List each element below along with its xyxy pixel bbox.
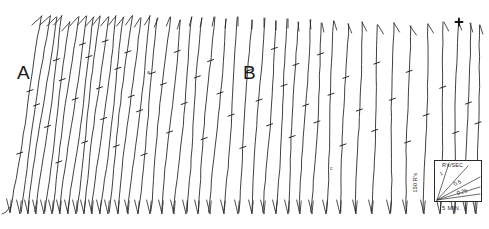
pen-reset-peak [47, 17, 56, 26]
pen-reset-notch [41, 200, 46, 214]
cumulative-trace [355, 22, 362, 212]
cumulative-trace [239, 20, 252, 212]
pen-reset-peak [378, 25, 384, 34]
cumulative-trace [45, 22, 70, 212]
cumulative-record-figure: A B a c R's/SEC 1 0.5 0.25 150 R's 5 MIN… [0, 0, 489, 229]
cumulative-trace [28, 17, 57, 212]
section-label-a: A [17, 63, 30, 82]
pen-reset-peak [166, 17, 170, 26]
pen-reset-notch [273, 200, 278, 214]
reinforcement-tick [34, 104, 40, 106]
cumulative-trace [10, 16, 41, 211]
pen-reset-peak [70, 17, 78, 26]
reinforcement-tick [267, 124, 273, 126]
slope-calibration-legend: R's/SEC 1 0.5 0.25 150 R's 5 MIN. [416, 158, 488, 220]
pen-reset-notch [49, 200, 54, 214]
pen-reset-notch [235, 200, 240, 214]
reinforcement-tick [372, 129, 378, 131]
pen-reset-notch [353, 200, 358, 214]
pen-reset-notch [323, 200, 328, 214]
reinforcement-tick [374, 62, 380, 64]
reinforcement-tick [453, 131, 459, 133]
cumulative-trace [341, 24, 349, 212]
pen-reset-peak [480, 25, 483, 34]
legend-y-axis-label: 150 R's [413, 173, 418, 193]
reinforcement-tick [56, 161, 62, 163]
reinforcement-tick [160, 83, 166, 85]
cumulative-trace [299, 20, 311, 212]
cumulative-trace [252, 18, 265, 212]
reinforcement-tick [17, 152, 23, 154]
cumulative-trace [224, 17, 238, 212]
cumulative-trace [127, 16, 150, 212]
reinforcement-tick [281, 84, 287, 86]
cumulative-trace [406, 26, 411, 212]
cumulative-trace [289, 22, 299, 212]
pen-reset-peak [334, 21, 337, 30]
reinforcement-tick [174, 50, 180, 52]
pen-reset-notch [73, 200, 78, 214]
cumulative-trace [118, 18, 141, 212]
reinforcement-tick [423, 114, 429, 116]
legend-rate-axis-label: R's/SEC [442, 163, 463, 168]
reinforcement-tick [115, 67, 121, 69]
pen-reset-notch [147, 200, 152, 214]
reinforcement-tick [405, 141, 411, 143]
reinforcement-tick [150, 72, 156, 74]
reinforcement-tick [328, 93, 334, 95]
pen-reset-peak [212, 17, 214, 26]
reinforcement-tick [181, 102, 187, 104]
pen-reset-notch [403, 200, 408, 214]
cumulative-trace [311, 23, 321, 212]
cumulative-trace [391, 23, 394, 212]
cumulative-trace [198, 17, 214, 212]
pen-reset-peak [322, 23, 324, 32]
reinforcement-tick [141, 153, 147, 155]
section-label-b: B [243, 63, 256, 82]
cumulative-trace [77, 16, 100, 212]
reinforcement-tick [125, 51, 131, 53]
micro-annotation-c: c [330, 166, 333, 171]
pen-reset-notch [105, 200, 110, 214]
pen-reset-notch [97, 200, 102, 214]
pen-reset-peak [444, 22, 449, 31]
pen-reset-peak [225, 19, 226, 28]
pen-reset-notch [135, 200, 140, 214]
pen-reset-notch [183, 200, 188, 214]
reinforcement-tick [289, 136, 295, 138]
reinforcement-tick [201, 138, 207, 140]
pen-reset-peak [134, 18, 140, 27]
cumulative-trace [162, 20, 181, 212]
pen-reset-peak [394, 23, 400, 32]
cumulative-trace [209, 19, 226, 212]
cumulative-trace [151, 17, 171, 212]
event-cross-marker [456, 19, 463, 26]
micro-annotation-a: a [147, 70, 150, 75]
pen-reset-peak [428, 24, 434, 33]
reinforcement-tick [314, 121, 320, 123]
cumulative-trace [100, 17, 124, 212]
reinforcement-tick [137, 110, 143, 112]
cumulative-trace [371, 25, 377, 212]
cumulative-trace [173, 17, 191, 212]
reinforcement-tick [475, 122, 481, 124]
cumulative-trace [138, 18, 157, 212]
reinforcement-tick [59, 79, 65, 81]
legend-x-axis-label: 5 MIN. [442, 206, 461, 212]
cumulative-trace [187, 18, 202, 212]
cumulative-trace [327, 21, 334, 212]
cumulative-trace [263, 21, 276, 212]
cumulative-trace [276, 19, 287, 212]
pen-reset-notch [285, 200, 290, 214]
pen-reset-notch [17, 200, 22, 214]
pen-reset-peak [101, 17, 108, 26]
reinforcement-tick [194, 76, 200, 78]
pen-reset-notch [65, 200, 70, 214]
reinforcement-tick [340, 144, 346, 146]
reinforcement-tick [217, 92, 223, 94]
pen-reset-notch [81, 200, 86, 214]
record-lead-in [2, 207, 10, 214]
pen-reset-peak [362, 22, 367, 31]
reinforcement-tick [390, 98, 396, 100]
reinforcement-tick [167, 131, 173, 133]
